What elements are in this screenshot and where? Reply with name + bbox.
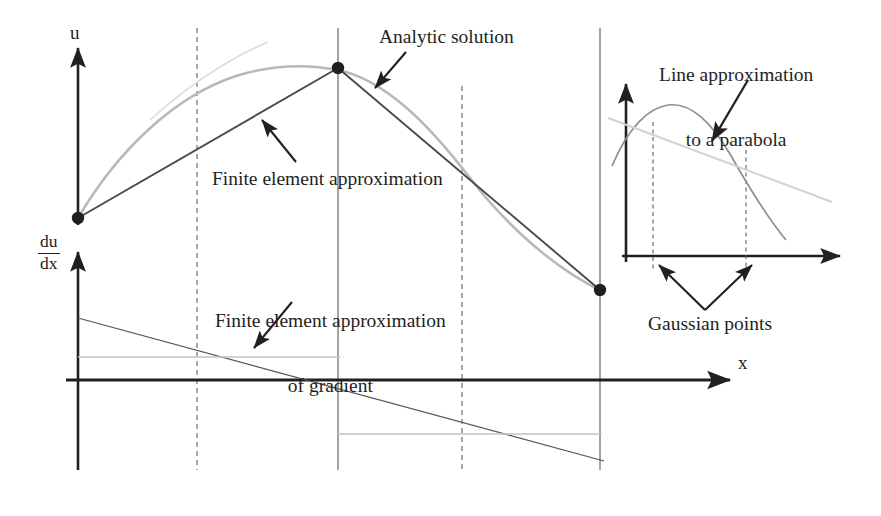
finite-element-gradient-label-line1: Finite element approximation — [215, 310, 446, 332]
gaussian-points-arrow-right — [705, 265, 752, 310]
gaussian-points-label: Gaussian points — [648, 313, 772, 335]
figure-canvas: u x du dx Analytic solution Finite eleme… — [0, 0, 881, 516]
analytic-solution-label: Analytic solution — [379, 26, 514, 48]
analytic-tangent-extension — [150, 42, 268, 120]
line-approximation-label-line2: to a parabola — [659, 129, 813, 151]
finite-element-approximation-label: Finite element approximation — [212, 168, 443, 190]
node-left — [72, 212, 84, 224]
node-right — [594, 284, 606, 296]
finite-element-gradient-label-line2: of gradient — [215, 375, 446, 397]
analytic-solution-arrow — [375, 52, 406, 88]
gradient-axis-label-numerator: du — [38, 233, 60, 251]
x-axis-label: x — [738, 352, 748, 373]
u-axis-label: u — [70, 22, 80, 43]
line-approximation-label: Line approximation to a parabola — [659, 20, 813, 195]
node-peak — [332, 62, 344, 74]
gaussian-points-arrow-left — [659, 265, 705, 310]
fe-approximation-arrow — [262, 120, 296, 162]
line-approximation-label-line1: Line approximation — [659, 64, 813, 86]
gradient-axis-label-denominator: dx — [38, 255, 60, 273]
gradient-axis-label: du dx — [38, 233, 60, 273]
finite-element-gradient-label: Finite element approximation of gradient — [215, 266, 446, 441]
